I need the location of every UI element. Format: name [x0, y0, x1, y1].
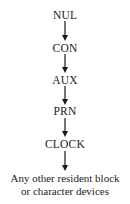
node-con: CON: [0, 42, 130, 54]
arrow-down-icon: [61, 86, 69, 105]
node-prn: PRN: [0, 105, 130, 117]
node-aux: AUX: [0, 74, 130, 86]
arrow-down-icon: [61, 118, 69, 137]
node-clock: CLOCK: [0, 138, 130, 150]
terminal-node: Any other resident block or character de…: [0, 172, 130, 197]
node-nul: NUL: [0, 9, 130, 21]
terminal-line-2: or character devices: [0, 185, 130, 198]
terminal-line-1: Any other resident block: [0, 172, 130, 185]
arrow-down-icon: [61, 151, 69, 171]
arrow-down-icon: [61, 54, 69, 73]
arrow-down-icon: [61, 21, 69, 41]
